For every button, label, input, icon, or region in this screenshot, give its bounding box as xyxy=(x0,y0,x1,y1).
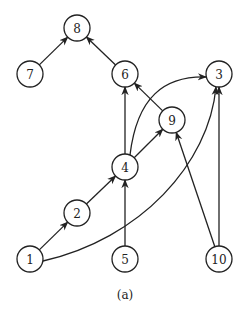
node-label: 10 xyxy=(211,253,226,267)
node-label: 9 xyxy=(168,114,176,128)
node-label: 7 xyxy=(26,68,34,82)
node-1: 1 xyxy=(17,246,43,272)
directed-graph-figure: 12345678910 (a) xyxy=(0,0,245,316)
node-label: 8 xyxy=(73,22,81,36)
edge-4-to-9 xyxy=(134,129,163,158)
node-label: 3 xyxy=(215,68,223,82)
edge-7-to-8 xyxy=(39,37,67,65)
node-9: 9 xyxy=(159,107,185,133)
edge-6-to-8 xyxy=(86,37,115,65)
edge-10-to-9 xyxy=(176,132,215,246)
node-4: 4 xyxy=(112,154,138,180)
node-7: 7 xyxy=(17,61,43,87)
graph-canvas: 12345678910 (a) xyxy=(0,0,245,316)
edge-1-to-2 xyxy=(39,222,67,250)
node-5: 5 xyxy=(112,246,138,272)
node-2: 2 xyxy=(64,200,90,226)
node-3: 3 xyxy=(206,61,232,87)
node-8: 8 xyxy=(64,15,90,41)
node-label: 1 xyxy=(26,253,34,267)
node-label: 6 xyxy=(121,68,129,82)
node-6: 6 xyxy=(112,61,138,87)
edge-2-to-4 xyxy=(86,176,115,204)
node-10: 10 xyxy=(206,246,232,272)
edge-9-to-6 xyxy=(134,83,162,111)
node-label: 5 xyxy=(121,253,129,267)
node-label: 4 xyxy=(121,161,129,175)
node-label: 2 xyxy=(73,207,81,221)
figure-caption: (a) xyxy=(117,288,134,302)
